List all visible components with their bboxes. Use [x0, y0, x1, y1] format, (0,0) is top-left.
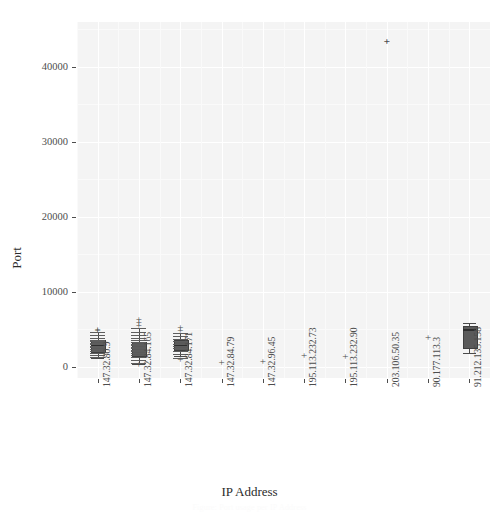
x-axis-tick-label: 91.212.135.158 [473, 327, 483, 387]
y-axis-tick-mark [72, 367, 76, 368]
x-axis-tick-mark [139, 379, 140, 383]
x-axis-tick-label: 203.106.50.35 [391, 332, 401, 387]
x-axis-tick-mark [304, 379, 305, 383]
boxplot-91.212.135.158 [77, 22, 490, 378]
y-axis-tick-label: 20000 [42, 212, 68, 223]
x-axis-tick-mark [387, 379, 388, 383]
boxplot-whisker-cap [463, 323, 476, 324]
figure-canvas: ++++++++++++++++ 010000200003000040000 P… [0, 0, 499, 516]
x-axis-tick-mark [345, 379, 346, 383]
x-axis-tick-mark [180, 379, 181, 383]
boxplot-data-stratum [90, 335, 105, 336]
y-axis-label: Port [9, 247, 25, 269]
x-axis-tick-mark [469, 379, 470, 383]
boxplot-data-stratum [90, 338, 105, 339]
y-axis-tick-mark [72, 67, 76, 68]
figure-caption: Figure: Port usage per IP Address [0, 503, 499, 512]
x-axis-tick-label: 195.113.232.90 [349, 327, 359, 387]
y-axis-tick-label: 0 [63, 362, 68, 373]
x-axis-tick-mark [98, 379, 99, 383]
boxplot-data-stratum [90, 332, 105, 333]
x-axis-tick-label: 147.32.84.79 [226, 337, 236, 387]
x-axis-label: IP Address [0, 484, 499, 500]
y-axis-tick-label: 10000 [42, 287, 68, 298]
x-axis-tick-label: 147.32.84.171 [184, 332, 194, 387]
x-axis-tick-label: 147.32.96.45 [267, 337, 277, 387]
y-axis-tick-mark [72, 292, 76, 293]
x-axis-tick-label: 147.32.84.165 [143, 332, 153, 387]
plot-panel: ++++++++++++++++ [77, 22, 490, 378]
x-axis-tick-mark [222, 379, 223, 383]
x-axis-tick-mark [263, 379, 264, 383]
x-axis-tick-label: 195.113.232.73 [308, 327, 318, 387]
boxplot-data-stratum [131, 328, 146, 329]
y-axis-tick-label: 40000 [42, 62, 68, 73]
y-axis-tick-label: 30000 [42, 137, 68, 148]
y-axis-tick-mark [72, 142, 76, 143]
x-axis-tick-label: 147.32.80.9 [102, 341, 112, 387]
x-axis-tick-label: 90.177.113.3 [432, 337, 442, 387]
y-axis-tick-mark [72, 217, 76, 218]
x-axis-tick-mark [428, 379, 429, 383]
